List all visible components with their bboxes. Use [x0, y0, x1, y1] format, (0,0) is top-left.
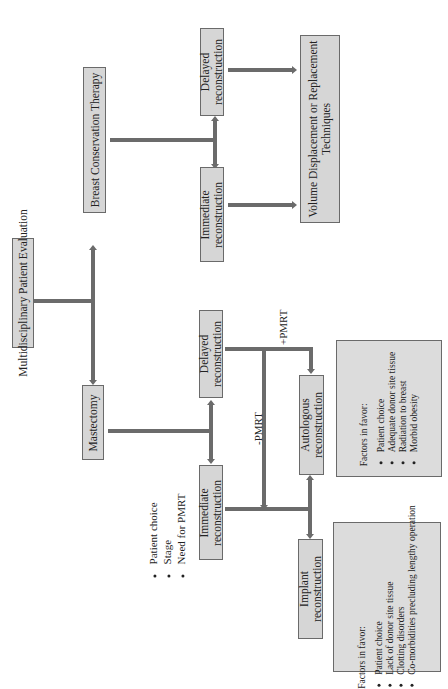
- implant-factors: Factors in favor: Patient choice Lack of…: [357, 505, 418, 689]
- arrow-down-icon: [307, 369, 315, 374]
- factor-item: Morbid obesity: [409, 351, 420, 452]
- connector: [228, 68, 292, 72]
- autologous-box: Autologous reconstruction: [299, 375, 324, 475]
- arrow-right-icon: [292, 66, 297, 74]
- arrow-up-icon: [89, 245, 97, 250]
- factor-item: Co-morbidities precluding lengthy operat…: [407, 505, 418, 675]
- mastectomy-delayed-box: Delayed reconstruction: [199, 310, 223, 398]
- implant-factors-box: Factors in favor: Patient choice Lack of…: [333, 522, 441, 672]
- bct-delayed-box: Delayed reconstruction: [200, 28, 224, 116]
- factors-title: Factors in favor:: [359, 351, 370, 466]
- consideration-item: Need for PMRT: [174, 494, 188, 565]
- connector: [309, 347, 313, 369]
- factor-item: Radiation to breast: [398, 351, 409, 452]
- arrow-right-icon: [292, 201, 297, 209]
- arrow-up-icon: [306, 475, 314, 480]
- factor-item: Patient choice: [376, 351, 387, 452]
- arrow-up-icon: [211, 116, 219, 121]
- connector: [110, 138, 215, 142]
- minus-pmrt-label: -PMRT: [252, 412, 264, 445]
- connector: [308, 480, 312, 535]
- bct-label: Breast Conservation Therapy: [88, 73, 101, 208]
- autologous-label: Autologous reconstruction: [299, 392, 325, 458]
- arrow-down-icon: [207, 459, 215, 464]
- consideration-item: Stage: [160, 494, 174, 565]
- mastectomy-immediate-box: Immediate reconstruction: [199, 465, 223, 560]
- plus-pmrt-label: +PMRT: [277, 310, 289, 346]
- mastectomy-immediate-label: Immediate reconstruction: [198, 480, 224, 546]
- implant-label: Implant reconstruction: [298, 556, 324, 622]
- implant-box: Implant reconstruction: [298, 539, 323, 639]
- autologous-factors: Factors in favor: Patient choice Adequat…: [359, 351, 420, 466]
- bct-immediate-label: Immediate reconstruction: [199, 182, 225, 248]
- connector: [91, 250, 95, 380]
- mastectomy-label: Mastectomy: [87, 394, 100, 451]
- connector: [34, 299, 93, 303]
- volume-displacement-box: Volume Displacement or Replacement Techn…: [300, 35, 340, 223]
- mastectomy-delayed-label: Delayed reconstruction: [198, 321, 224, 387]
- connector: [213, 120, 217, 165]
- factor-item: Lack of donor site tissue: [385, 505, 396, 675]
- connector: [225, 347, 312, 351]
- consideration-item: Patient choice: [146, 494, 160, 565]
- connector: [209, 405, 213, 460]
- bct-box: Breast Conservation Therapy: [83, 67, 106, 213]
- arrow-up-icon: [207, 400, 215, 405]
- volume-displacement-label: Volume Displacement or Replacement Techn…: [307, 40, 333, 217]
- bct-immediate-box: Immediate reconstruction: [200, 167, 224, 262]
- root-box: Multidisciplinary Patient Evaluation: [12, 238, 34, 348]
- mastectomy-box: Mastectomy: [82, 385, 104, 460]
- factor-item: Patient choice: [374, 505, 385, 675]
- autologous-factors-box: Factors in favor: Patient choice Adequat…: [336, 340, 442, 477]
- mastectomy-considerations: Patient choice Stage Need for PMRT: [146, 494, 188, 579]
- bct-delayed-label: Delayed reconstruction: [199, 39, 225, 105]
- connector: [225, 507, 310, 511]
- factors-title: Factors in favor:: [357, 505, 368, 689]
- connector: [228, 203, 292, 207]
- factor-item: Clotting disorders: [396, 505, 407, 675]
- root-label: Multidisciplinary Patient Evaluation: [17, 209, 30, 376]
- connector: [108, 429, 211, 433]
- factor-item: Adequate donor site tissue: [387, 351, 398, 452]
